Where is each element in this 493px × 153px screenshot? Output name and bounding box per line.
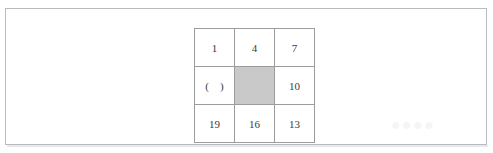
grid-cell-answer-blank[interactable]: ( ) — [195, 67, 235, 105]
table-row: 1 4 7 — [195, 29, 315, 67]
grid-cell-r3c3[interactable]: 13 — [275, 105, 315, 143]
grid-cell-shaded-center[interactable] — [235, 67, 275, 105]
grid-cell-r3c2[interactable]: 16 — [235, 105, 275, 143]
number-grid-body: 1 4 7 ( ) 10 19 16 13 — [195, 29, 315, 143]
scan-watermark: •••• — [391, 105, 477, 145]
grid-cell-r1c2[interactable]: 4 — [235, 29, 275, 67]
scanned-page-sheet: •••• 1 4 7 ( ) 10 19 16 13 — [5, 8, 487, 145]
grid-cell-r2c3[interactable]: 10 — [275, 67, 315, 105]
grid-cell-r1c1[interactable]: 1 — [195, 29, 235, 67]
answer-blank-parentheses: ( ) — [205, 80, 223, 92]
grid-cell-r1c3[interactable]: 7 — [275, 29, 315, 67]
table-row: ( ) 10 — [195, 67, 315, 105]
grid-cell-r3c1[interactable]: 19 — [195, 105, 235, 143]
number-grid-table: 1 4 7 ( ) 10 19 16 13 — [194, 28, 315, 143]
table-row: 19 16 13 — [195, 105, 315, 143]
